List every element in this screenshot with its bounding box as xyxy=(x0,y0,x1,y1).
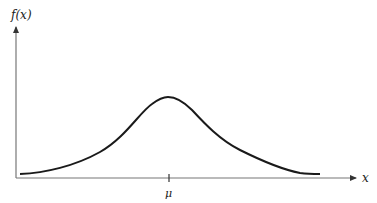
density-chart: f(x) x μ xyxy=(0,0,377,203)
mean-label: μ xyxy=(165,187,172,200)
y-axis-label: f(x) xyxy=(10,8,32,22)
x-axis-label: x xyxy=(362,171,369,185)
density-curve xyxy=(20,97,320,174)
